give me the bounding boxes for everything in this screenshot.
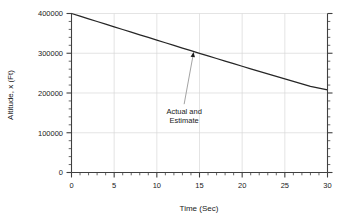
x-tick-label: 25 — [281, 181, 289, 190]
chart-figure: 0510152025300100000200000300000400000 Ac… — [0, 0, 343, 218]
annotation-label: Actual and — [166, 107, 201, 116]
gridlines — [72, 14, 328, 173]
x-tick-label: 30 — [323, 181, 331, 190]
x-tick-label: 10 — [153, 181, 161, 190]
annotation-label: Estimate — [170, 116, 199, 125]
y-tick-label: 300000 — [38, 49, 63, 58]
y-tick-label: 200000 — [38, 89, 63, 98]
annotation-group: Actual andEstimate — [166, 52, 201, 125]
x-tick-label: 0 — [69, 181, 73, 190]
y-tick-label: 100000 — [38, 129, 63, 138]
annotation-arrow-head-icon — [191, 52, 195, 57]
x-tick-label: 5 — [112, 181, 116, 190]
annotation-leader-line — [184, 56, 193, 104]
x-tick-label: 20 — [238, 181, 246, 190]
y-tick-label: 400000 — [38, 9, 63, 18]
y-tick-label: 0 — [59, 168, 63, 177]
x-axis-title: Time (Sec) — [180, 204, 219, 213]
x-tick-label: 15 — [195, 181, 203, 190]
y-axis-title: Altitude, x (Ft) — [6, 70, 15, 120]
altitude-vs-time-line-chart: 0510152025300100000200000300000400000 Ac… — [0, 0, 343, 218]
